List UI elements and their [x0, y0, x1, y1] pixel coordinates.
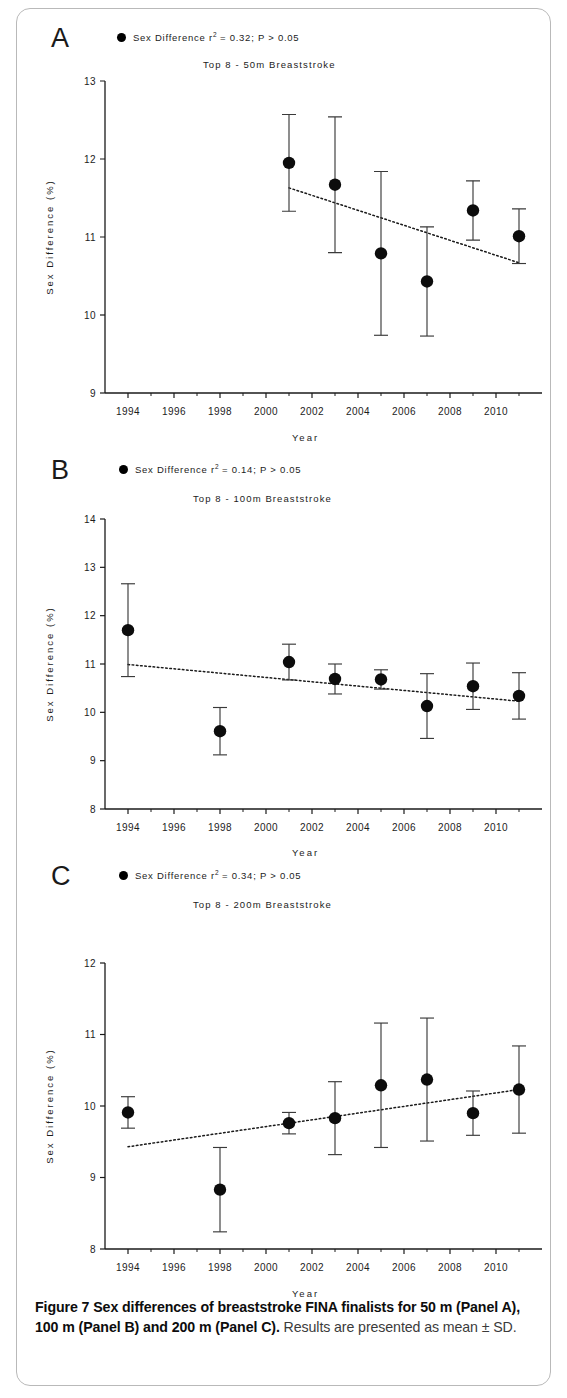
- x-tick-label: 2004: [346, 1262, 370, 1273]
- x-tick-label: 1998: [208, 822, 232, 833]
- x-tick-label: 2002: [300, 822, 324, 833]
- y-tick-label: 14: [84, 514, 96, 525]
- panel-c: C Sex Difference r2 = 0.34; P > 0.05 Top…: [17, 845, 551, 1285]
- y-tick-label: 10: [84, 310, 96, 321]
- figure-caption: Figure 7 Sex differences of breaststroke…: [35, 1297, 540, 1337]
- x-tick-label: 2004: [346, 822, 370, 833]
- data-point: [421, 700, 433, 712]
- data-point: [513, 690, 525, 702]
- x-tick-label: 2008: [438, 822, 462, 833]
- y-tick-label: 12: [84, 610, 96, 621]
- data-point: [513, 230, 525, 242]
- y-tick-label: 9: [90, 388, 96, 399]
- x-tick-label: 2002: [300, 406, 324, 417]
- x-tick-label: 1998: [208, 406, 232, 417]
- y-tick-label: 12: [84, 154, 96, 165]
- x-tick-label: 2010: [484, 1262, 508, 1273]
- panel-b: B Sex Difference r2 = 0.14; P > 0.05 Top…: [17, 441, 551, 841]
- data-point: [375, 673, 387, 685]
- y-axis-title: Sex Difference (%): [44, 606, 55, 722]
- x-tick-label: 2000: [254, 1262, 278, 1273]
- x-tick-label: 1996: [162, 406, 186, 417]
- data-point: [283, 656, 295, 668]
- x-tick-label: 2008: [438, 406, 462, 417]
- data-point: [329, 1112, 341, 1124]
- x-tick-label: 1994: [116, 1262, 140, 1273]
- data-point: [122, 624, 134, 636]
- y-tick-label: 10: [84, 707, 96, 718]
- data-point: [467, 204, 479, 216]
- y-tick-label: 12: [84, 958, 96, 969]
- data-point: [467, 680, 479, 692]
- trendline: [128, 664, 519, 701]
- y-tick-label: 9: [90, 755, 96, 766]
- data-point: [467, 1107, 479, 1119]
- data-point: [421, 1073, 433, 1085]
- data-point: [329, 673, 341, 685]
- x-tick-label: 2006: [392, 822, 416, 833]
- data-point: [122, 1106, 134, 1118]
- figure-card: A Sex Difference r2 = 0.32; P > 0.05 Top…: [16, 8, 551, 1386]
- x-tick-label: 1996: [162, 1262, 186, 1273]
- data-point: [375, 247, 387, 259]
- y-axis-title: Sex Difference (%): [44, 179, 55, 295]
- scatter-plot-c: 8910111219941996199820002002200420062008…: [17, 845, 551, 1285]
- x-tick-label: 2000: [254, 822, 278, 833]
- data-point: [513, 1083, 525, 1095]
- data-point: [421, 275, 433, 287]
- y-tick-label: 11: [85, 1029, 96, 1040]
- y-axis-title: Sex Difference (%): [44, 1048, 55, 1164]
- y-tick-label: 8: [90, 804, 96, 815]
- scatter-plot-a: 9101112131994199619982000200220042006200…: [17, 11, 551, 441]
- y-tick-label: 11: [85, 232, 96, 243]
- y-tick-label: 13: [84, 562, 96, 573]
- x-tick-label: 1996: [162, 822, 186, 833]
- x-tick-label: 2004: [346, 406, 370, 417]
- x-tick-label: 1994: [116, 406, 140, 417]
- x-tick-label: 2000: [254, 406, 278, 417]
- x-tick-label: 2006: [392, 406, 416, 417]
- data-point: [283, 157, 295, 169]
- x-tick-label: 1998: [208, 1262, 232, 1273]
- scatter-plot-b: 8910111213141994199619982000200220042006…: [17, 441, 551, 841]
- x-tick-label: 1994: [116, 822, 140, 833]
- data-point: [214, 1183, 226, 1195]
- caption-rest: Results are presented as mean ± SD.: [280, 1319, 517, 1335]
- data-point: [375, 1079, 387, 1091]
- trendline: [128, 1090, 519, 1147]
- x-tick-label: 2002: [300, 1262, 324, 1273]
- y-tick-label: 13: [84, 76, 96, 87]
- y-tick-label: 8: [90, 1244, 96, 1255]
- y-tick-label: 9: [90, 1172, 96, 1183]
- data-point: [329, 179, 341, 191]
- y-tick-label: 11: [85, 659, 96, 670]
- x-tick-label: 2006: [392, 1262, 416, 1273]
- x-tick-label: 2008: [438, 1262, 462, 1273]
- data-point: [214, 725, 226, 737]
- x-tick-label: 2010: [484, 406, 508, 417]
- y-tick-label: 10: [84, 1101, 96, 1112]
- trendline: [289, 188, 519, 263]
- data-point: [283, 1117, 295, 1129]
- panel-a: A Sex Difference r2 = 0.32; P > 0.05 Top…: [17, 11, 551, 441]
- x-tick-label: 2010: [484, 822, 508, 833]
